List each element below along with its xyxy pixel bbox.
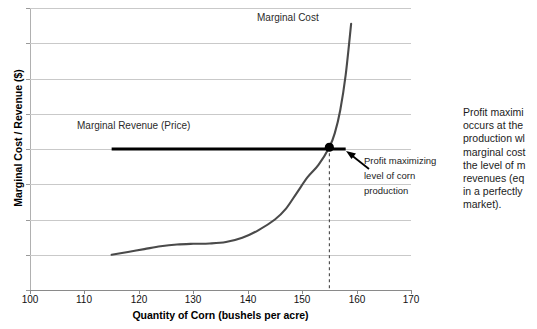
side-note-line-3: production wl xyxy=(463,132,537,145)
equilibrium-point-marker xyxy=(325,143,334,152)
callout-line-1: Profit maximizing xyxy=(364,153,440,168)
marginal-cost-curve xyxy=(112,24,351,255)
side-note-line-5: the level of m xyxy=(463,159,537,172)
side-note-line-6: revenues (eq xyxy=(463,172,537,185)
chart-page: 8 7 6 5 4 3 2 1 0 100 110 120 130 140 15… xyxy=(0,0,537,329)
side-note-line-2: occurs at the xyxy=(463,119,537,132)
side-note-line-8: market). xyxy=(463,198,537,211)
side-note-line-1: Profit maximi xyxy=(463,106,537,119)
side-explanation-note: Profit maximi occurs at the production w… xyxy=(463,106,537,212)
callout-line-2: level of corn xyxy=(364,168,440,183)
chart-container: 8 7 6 5 4 3 2 1 0 100 110 120 130 140 15… xyxy=(0,0,430,329)
profit-max-callout: Profit maximizing level of corn producti… xyxy=(364,153,440,198)
callout-line-3: production xyxy=(364,183,440,198)
side-note-line-7: in a perfectly xyxy=(463,185,537,198)
side-note-line-4: marginal cost xyxy=(463,146,537,159)
